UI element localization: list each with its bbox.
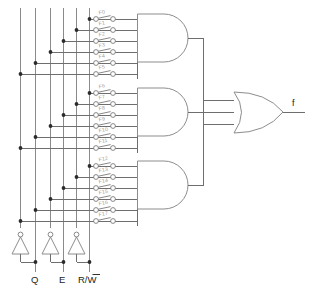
fuse-link [98, 185, 110, 188]
input-label-q: Q [31, 274, 38, 285]
fuse-node-right [111, 186, 116, 191]
fuse-node-right [111, 164, 116, 169]
or-gate-body [234, 92, 283, 133]
junction-dot-7 [75, 102, 79, 106]
junction-dot-13 [75, 175, 79, 179]
fuse-label: F16 [98, 199, 108, 207]
fuse-node-right [111, 135, 116, 140]
fuse-link [98, 60, 110, 63]
and-gate-3-input-group: F12 F13 F14 F15 [19, 155, 138, 226]
and-gate-2-body [138, 88, 189, 136]
junction-dot-6 [88, 91, 92, 95]
fuse-label: F4 [98, 52, 105, 59]
junction-dot-14 [62, 186, 66, 190]
inverter-rw-bubble [74, 232, 79, 237]
fuse-node-right [111, 39, 116, 44]
fuse-link [98, 38, 110, 41]
fuse-label: F8 [98, 104, 105, 111]
fuse-node-right [111, 102, 116, 107]
fuse-label: F15 [98, 188, 108, 196]
fuse-node-right [111, 17, 116, 22]
fuse-label: F2 [98, 30, 105, 37]
output-label: f [292, 98, 295, 108]
inverter-e[interactable] [42, 232, 64, 262]
fuse-node-right [111, 72, 116, 77]
and-gate-3[interactable] [138, 161, 204, 209]
fuse-link [98, 16, 110, 19]
or-gate[interactable]: f [234, 92, 305, 133]
fuse-node-right [111, 146, 116, 151]
junction-dot-4 [34, 61, 38, 65]
fuse-node-left [94, 72, 99, 77]
junction-dot-q [34, 260, 38, 264]
inverter-q[interactable] [12, 232, 36, 262]
junction-dot-2 [62, 39, 66, 43]
and-gate-3-body [138, 161, 189, 209]
fuse-node-right [111, 175, 116, 180]
fuse-label: F11 [98, 137, 108, 144]
fuse-label: F14 [98, 177, 108, 185]
fuse-node-right [111, 219, 116, 224]
fuse-node-left [94, 219, 99, 224]
and-gate-2[interactable] [138, 88, 235, 136]
fuse-node-right [111, 61, 116, 66]
fuse-link [98, 196, 110, 199]
inverter-rw[interactable] [68, 232, 90, 262]
junction-dot-e [62, 260, 66, 264]
fuse-label: F12 [98, 155, 108, 163]
fuse-link [98, 112, 110, 115]
fuse-label: F0 [98, 8, 105, 15]
fuse-link [98, 49, 110, 52]
inverter-e-bubble [48, 232, 53, 237]
junction-dot-rw [88, 260, 92, 264]
and-gate-1[interactable] [138, 14, 204, 62]
inverter-rw-body [68, 237, 85, 254]
junction-dot-5 [19, 72, 23, 76]
junction-dot-15 [49, 197, 53, 201]
junction-dot-0 [88, 17, 92, 21]
fuse-link [98, 27, 110, 30]
fuse-link [98, 163, 110, 166]
junction-dot-1 [75, 28, 79, 32]
fuse-node-left [94, 146, 99, 151]
fuse-node-right [111, 197, 116, 202]
fuse-node-right [111, 208, 116, 213]
inverter-e-body [42, 237, 59, 254]
fuse-label: F17 [98, 210, 108, 218]
fuse-link [98, 134, 110, 137]
inverter-q-bubble [18, 232, 23, 237]
and-gate-2-input-group: F6 F7 F8 F9 [19, 82, 138, 153]
fuse-label: F7 [98, 93, 105, 100]
fuse-link [98, 71, 110, 74]
fuse-link [98, 174, 110, 177]
junction-dot-10 [34, 135, 38, 139]
fuse-link [98, 123, 110, 126]
fuse-label: F1 [98, 19, 105, 26]
inverter-q-body [12, 237, 29, 254]
junction-dot-11 [19, 146, 23, 150]
fuse-link [98, 90, 110, 93]
fuse-label: F13 [98, 166, 108, 174]
fuse-node-right [111, 28, 116, 33]
junction-dot-12 [88, 164, 92, 168]
fuse-label: F6 [98, 82, 105, 89]
fuse-link [98, 101, 110, 104]
fuse-node-right [111, 91, 116, 96]
fuse-node-right [111, 113, 116, 118]
junction-dot-9 [49, 124, 53, 128]
junction-dot-16 [34, 208, 38, 212]
fuse-label: F3 [98, 41, 105, 48]
logic-diagram-canvas: F0 F1 F2 F3 [0, 0, 317, 291]
fuse-label: F10 [98, 126, 108, 134]
circuit-schematic: F0 F1 F2 F3 [0, 0, 317, 291]
and-gate-1-input-group: F0 F1 F2 F3 [19, 8, 138, 79]
input-label-rw: R/W [78, 274, 97, 285]
junction-dot-8 [62, 113, 66, 117]
fuse-link [98, 218, 110, 221]
input-stage: Q E R/W [12, 228, 100, 285]
junction-dot-17 [19, 219, 23, 223]
fuse-link [98, 145, 110, 148]
fuse-node-right [111, 124, 116, 129]
fuse-node-right [111, 50, 116, 55]
junction-dot-3 [49, 50, 53, 54]
